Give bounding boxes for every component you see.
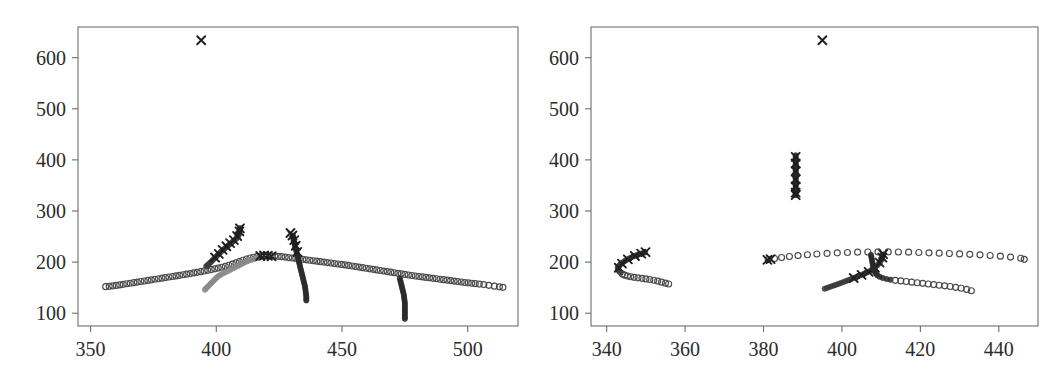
x-axis-tick-label: 340 bbox=[592, 338, 622, 360]
plot-area-left: 350400450500100200300400500600 bbox=[0, 0, 530, 382]
y-axis-tick-label: 100 bbox=[549, 302, 579, 324]
y-axis-tick-label: 200 bbox=[549, 251, 579, 273]
figure-container: 350400450500100200300400500600 340360380… bbox=[0, 0, 1061, 382]
x-axis-tick-label: 440 bbox=[984, 338, 1014, 360]
x-axis-tick-label: 360 bbox=[670, 338, 700, 360]
scatter-panel-right: 340360380400420440100200300400500600 bbox=[530, 0, 1061, 382]
x-axis-tick-label: 500 bbox=[453, 338, 483, 360]
marker-filled-circle bbox=[402, 316, 407, 321]
y-axis-tick-label: 100 bbox=[36, 302, 66, 324]
y-axis-tick-label: 600 bbox=[36, 47, 66, 69]
y-axis-tick-label: 200 bbox=[36, 251, 66, 273]
y-axis-tick-label: 300 bbox=[36, 200, 66, 222]
plot-area-right: 340360380400420440100200300400500600 bbox=[530, 0, 1061, 382]
scatter-panel-left: 350400450500100200300400500600 bbox=[0, 0, 530, 382]
x-axis-tick-label: 350 bbox=[76, 338, 106, 360]
x-axis-tick-label: 400 bbox=[201, 338, 231, 360]
marker-filled-circle bbox=[304, 298, 309, 303]
x-axis-tick-label: 400 bbox=[827, 338, 857, 360]
y-axis-tick-label: 400 bbox=[549, 149, 579, 171]
y-axis-tick-label: 300 bbox=[549, 200, 579, 222]
y-axis-tick-label: 500 bbox=[549, 98, 579, 120]
y-axis-tick-label: 400 bbox=[36, 149, 66, 171]
x-axis-tick-label: 380 bbox=[749, 338, 779, 360]
x-axis-tick-label: 420 bbox=[905, 338, 935, 360]
x-axis-tick-label: 450 bbox=[327, 338, 357, 360]
y-axis-tick-label: 500 bbox=[36, 98, 66, 120]
plot-frame bbox=[591, 27, 1038, 326]
y-axis-tick-label: 600 bbox=[549, 47, 579, 69]
